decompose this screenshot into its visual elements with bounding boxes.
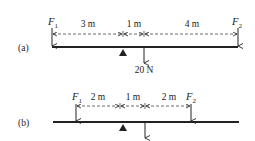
distance-a-3: 4 m — [185, 19, 200, 29]
distance-a-1: 3 m — [81, 19, 96, 29]
distance-b-3: 2 m — [162, 92, 177, 102]
distance-b-2: 1 m — [126, 92, 141, 102]
part-b: (b) F1 F2 2 m 1 m 2 m — [18, 91, 239, 138]
load-label-a: 20 N — [135, 65, 154, 75]
part-a-label: (a) — [18, 43, 29, 54]
f1-label-a: F1 — [47, 16, 58, 30]
fulcrum-triangle-icon — [119, 124, 127, 131]
part-a: (a) F1 F2 3 m 1 m 4 m 20 N — [18, 16, 242, 75]
f2-label-b: F2 — [185, 91, 196, 105]
distance-a-2: 1 m — [127, 19, 142, 29]
distance-b-1: 2 m — [91, 92, 106, 102]
f2-label-a: F2 — [231, 16, 242, 30]
part-b-label: (b) — [18, 118, 29, 129]
f1-label-b: F1 — [71, 91, 82, 105]
lever-diagram: (a) F1 F2 3 m 1 m 4 m 20 N (b) F1 F2 — [0, 0, 255, 141]
fulcrum-triangle-icon — [119, 49, 127, 56]
